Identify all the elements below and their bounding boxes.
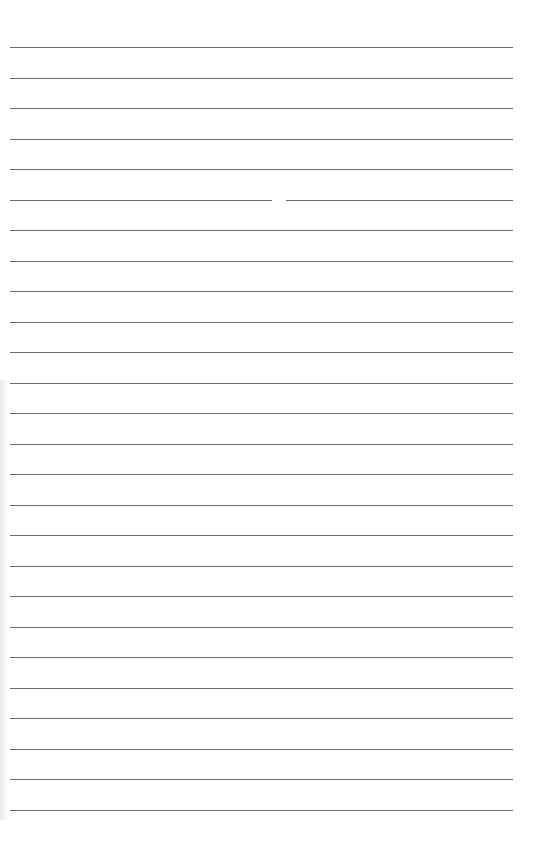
line-gap — [272, 199, 286, 202]
ruled-line — [10, 718, 513, 719]
ruled-line — [10, 383, 513, 384]
ruled-line — [10, 535, 513, 536]
ruled-line — [10, 413, 513, 414]
ruled-line — [10, 688, 513, 689]
ruled-line — [10, 749, 513, 750]
ruled-line — [10, 566, 513, 567]
page-edge-shadow — [0, 380, 8, 820]
ruled-line — [10, 779, 513, 780]
ruled-line — [10, 627, 513, 628]
ruled-line — [10, 322, 513, 323]
ruled-line — [10, 230, 513, 231]
ruled-line — [10, 474, 513, 475]
ruled-line — [10, 596, 513, 597]
ruled-line — [10, 657, 513, 658]
ruled-line — [10, 261, 513, 262]
ruled-line — [10, 810, 513, 811]
ruled-line — [10, 352, 513, 353]
ruled-line — [10, 444, 513, 445]
ruled-line — [10, 169, 513, 170]
ruled-line — [10, 505, 513, 506]
ruled-line — [10, 108, 513, 109]
ruled-line — [10, 78, 513, 79]
ruled-line — [10, 200, 513, 201]
ruled-line — [10, 291, 513, 292]
ruled-line — [10, 47, 513, 48]
ruled-line — [10, 139, 513, 140]
